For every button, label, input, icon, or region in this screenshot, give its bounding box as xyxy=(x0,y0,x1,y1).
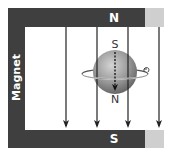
field-arrowheads xyxy=(63,120,162,128)
magnet-diagram: N S Magnet xyxy=(0,0,171,157)
sphere-south-label: S xyxy=(109,39,121,50)
field-and-sphere-graphic xyxy=(0,0,171,157)
sphere-north-label: N xyxy=(109,94,121,105)
